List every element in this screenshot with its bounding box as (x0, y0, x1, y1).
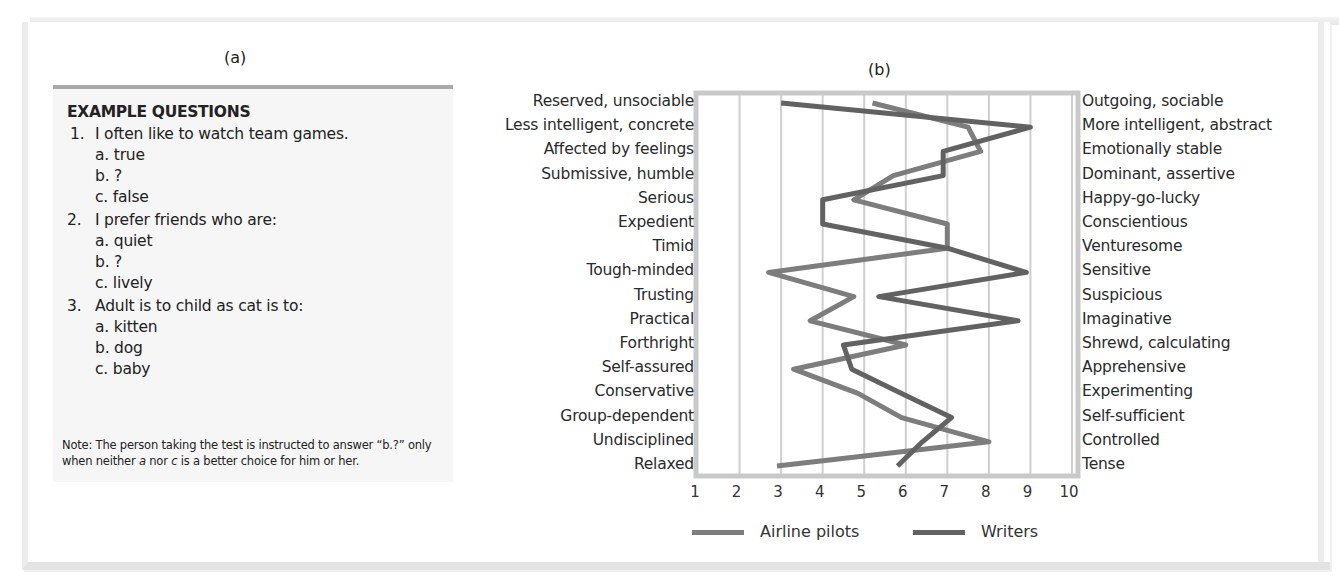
chart-grid (696, 93, 1078, 476)
right-trait-label: Sensitive (1082, 261, 1151, 279)
legend-writers: Writers (913, 522, 1038, 541)
right-trait-label: Outgoing, sociable (1082, 92, 1223, 110)
right-trait-label: Emotionally stable (1082, 140, 1222, 158)
left-trait-label: Forthright (619, 334, 694, 352)
left-trait-label: Undisciplined (593, 431, 694, 449)
legend-label: Airline pilots (760, 522, 859, 541)
x-tick-label: 9 (1023, 483, 1033, 501)
left-trait-label: Affected by feelings (544, 140, 694, 158)
right-trait-label: Conscientious (1082, 213, 1188, 231)
right-trait-label: Happy-go-lucky (1082, 189, 1200, 207)
legend-label: Writers (981, 522, 1038, 541)
left-trait-label: Less intelligent, concrete (505, 116, 694, 134)
left-trait-label: Conservative (595, 382, 694, 400)
left-trait-label: Expedient (618, 213, 694, 231)
left-trait-label: Tough-minded (587, 261, 694, 279)
x-tick-label: 8 (981, 483, 991, 501)
legend-swatch-airline-pilots (692, 530, 744, 535)
x-tick-label: 7 (940, 483, 950, 501)
plot-area (696, 93, 1078, 476)
legend-airline-pilots: Airline pilots (692, 522, 859, 541)
left-trait-label: Relaxed (634, 455, 694, 473)
left-trait-label: Submissive, humble (541, 165, 694, 183)
x-tick-label: 10 (1059, 483, 1078, 501)
right-trait-label: Self-sufficient (1082, 407, 1184, 425)
left-trait-label: Group-dependent (560, 407, 694, 425)
left-trait-label: Serious (638, 189, 694, 207)
right-trait-label: Dominant, assertive (1082, 165, 1235, 183)
left-trait-label: Self-assured (602, 358, 694, 376)
right-trait-label: Imaginative (1082, 310, 1172, 328)
right-trait-label: Suspicious (1082, 286, 1162, 304)
legend-swatch-writers (913, 530, 965, 535)
left-trait-label: Reserved, unsociable (533, 92, 694, 110)
left-trait-label: Timid (652, 237, 694, 255)
x-tick-label: 5 (856, 483, 866, 501)
left-trait-label: Practical (630, 310, 694, 328)
x-tick-label: 3 (773, 483, 783, 501)
x-tick-label: 4 (815, 483, 825, 501)
right-trait-label: Venturesome (1082, 237, 1182, 255)
right-trait-label: Tense (1082, 455, 1125, 473)
x-tick-label: 2 (732, 483, 742, 501)
right-trait-label: Experimenting (1082, 382, 1193, 400)
right-trait-label: Apprehensive (1082, 358, 1186, 376)
x-tick-label: 6 (898, 483, 908, 501)
x-tick-label: 1 (690, 483, 700, 501)
right-trait-label: Shrewd, calculating (1082, 334, 1230, 352)
right-trait-label: More intelligent, abstract (1082, 116, 1272, 134)
right-trait-label: Controlled (1082, 431, 1160, 449)
left-trait-label: Trusting (634, 286, 694, 304)
